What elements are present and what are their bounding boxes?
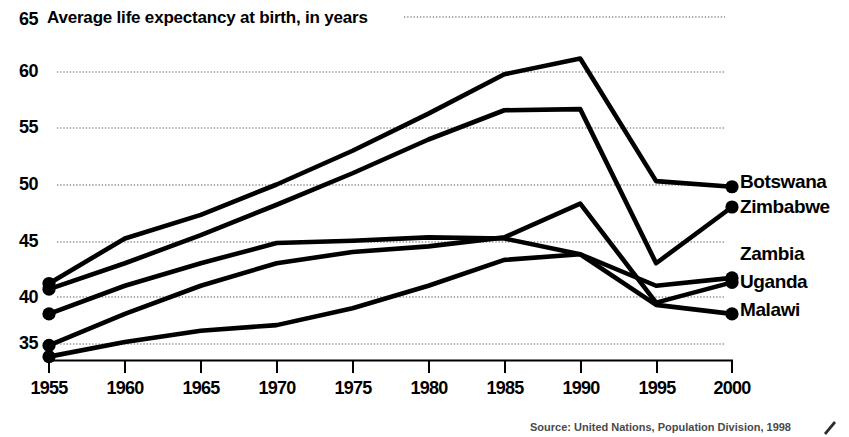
x-axis-ticks [49,360,732,373]
x-tick-label-2000: 2000 [702,378,762,399]
legend-label-malawi: Malawi [740,299,800,321]
series-start-marker [42,283,55,296]
series-end-marker [725,180,738,193]
series-zimbabwe [42,109,738,296]
life-expectancy-chart: Average life expectancy at birth, in yea… [0,0,849,437]
series-start-marker [42,339,55,352]
x-tick-label-1980: 1980 [399,378,459,399]
x-tick-label-1955: 1955 [19,378,79,399]
data-series-layer [42,59,738,364]
legend-label-uganda: Uganda [740,271,807,293]
x-tick-label-1985: 1985 [475,378,535,399]
legend-label-zambia: Zambia [740,243,804,265]
x-tick-label-1970: 1970 [247,378,307,399]
series-end-marker [725,276,738,289]
series-end-marker [725,307,738,320]
x-tick-label-1960: 1960 [95,378,155,399]
legend-label-zimbabwe: Zimbabwe [740,196,830,218]
logo-mark [821,419,839,437]
x-tick-label-1990: 1990 [551,378,611,399]
x-tick-label-1995: 1995 [627,378,687,399]
x-tick-label-1965: 1965 [171,378,231,399]
source-note: Source: United Nations, Population Divis… [530,421,791,437]
legend-label-botswana: Botswana [740,171,827,193]
series-start-marker [42,350,55,363]
x-tick-label-1975: 1975 [323,378,383,399]
plot-area [0,0,849,437]
series-start-marker [42,307,55,320]
series-end-marker [725,200,738,213]
x-axis [48,360,733,373]
